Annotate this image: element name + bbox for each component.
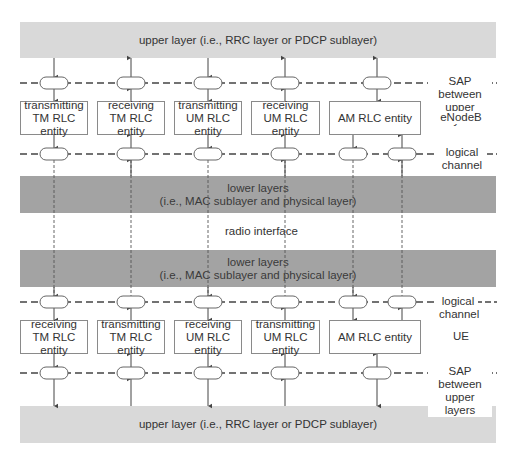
enodeb-label: eNodeB — [432, 111, 490, 124]
enb-logical-channel-label: logical channel — [438, 146, 486, 172]
enb-receiving-tm-rlc-entity: receiving TM RLC entity — [97, 101, 165, 135]
enb-am-rlc-entity: AM RLC entity — [329, 101, 421, 135]
enb-receiving-um-rlc-entity: receiving UM RLC entity — [251, 101, 320, 135]
radio-interface-label: radio interface — [225, 225, 298, 237]
ue-receiving-um-rlc-entity: receiving UM RLC entity — [174, 320, 242, 354]
ue-receiving-tm-rlc-entity: receiving TM RLC entity — [20, 320, 88, 354]
ue-transmitting-um-rlc-entity: transmitting UM RLC entity — [251, 320, 320, 354]
enb-transmitting-um-rlc-entity: transmitting UM RLC entity — [174, 101, 242, 135]
enb-transmitting-tm-rlc-entity: transmitting TM RLC entity — [20, 101, 88, 135]
rlc-architecture-diagram: upper layer (i.e., RRC layer or PDCP sub… — [0, 0, 515, 461]
ue-transmitting-tm-rlc-entity: transmitting TM RLC entity — [97, 320, 165, 354]
ue-am-rlc-entity: AM RLC entity — [329, 320, 421, 354]
enb-sap-oval — [40, 77, 68, 89]
ue-label: UE — [442, 330, 480, 343]
ue-logical-channel-label: logical channel — [438, 295, 478, 321]
ue-sap-label: SAP between upper layers — [428, 365, 492, 417]
